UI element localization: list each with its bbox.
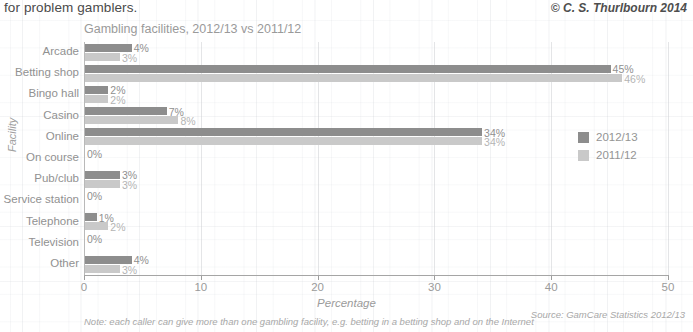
legend-label: 2012/13 [596,131,638,143]
bar-2011-12-online [85,137,482,145]
y-axis-category-label: Telephone [26,215,79,227]
chart-note: Note: each caller can give more than one… [84,316,534,327]
chart-legend: 2012/132011/12 [578,128,638,164]
bar-2012-13-other [85,256,132,264]
bar-2012-13-bingo-hall [85,86,108,94]
y-axis-category-label: On course [26,151,79,163]
y-axis-category-label: Betting shop [15,66,79,78]
bar-2011-12-other [85,265,120,273]
copyright-notice: © C. S. Thurlbourn 2014 [551,1,687,15]
x-tick-label: 20 [311,281,324,293]
bar-value-label: 34% [484,136,505,148]
bar-value-label: 3% [122,52,137,64]
y-axis-category-label: Pub/club [34,172,79,184]
bar-chart: Gambling facilities, 2012/13 vs 2011/12 … [0,18,693,332]
y-axis-category-label: Bingo hall [28,87,79,99]
chart-category-row: Television0% [0,233,693,254]
legend-swatch-icon [578,150,589,161]
bar-2012-13-arcade [85,44,132,52]
bar-value-label: 0% [87,148,102,160]
y-axis-line [84,42,85,276]
bar-2011-12-betting-shop [85,74,622,82]
bar-2012-13-casino [85,107,167,115]
bar-2011-12-pub-club [85,180,120,188]
chart-category-row: Service station0% [0,190,693,211]
legend-label: 2011/12 [596,149,637,161]
x-axis-line [84,275,669,276]
chart-category-row: Telephone1%2% [0,212,693,233]
bar-value-label: 8% [180,115,195,127]
header-caption: for problem gamblers. [4,0,137,15]
bar-2012-13-betting-shop [85,65,611,73]
x-axis-title: Percentage [0,297,693,309]
y-axis-category-label: Arcade [43,45,79,57]
bar-value-label: 2% [110,221,125,233]
chart-title: Gambling facilities, 2012/13 vs 2011/12 [84,22,301,36]
page-header: for problem gamblers. © C. S. Thurlbourn… [0,0,693,20]
x-tick-label: 0 [81,281,87,293]
y-axis-category-label: Casino [43,109,79,121]
bar-2012-13-telephone [85,213,97,221]
bar-value-label: 3% [122,264,137,276]
chart-category-row: Arcade4%3% [0,42,693,63]
bar-2012-13-pub-club [85,171,120,179]
x-tick-label: 50 [662,281,675,293]
legend-item-2011-12[interactable]: 2011/12 [578,146,638,164]
legend-swatch-icon [578,132,589,143]
bar-2011-12-bingo-hall [85,95,108,103]
chart-category-row: Other4%3% [0,254,693,275]
bar-2011-12-casino [85,116,178,124]
chart-category-row: Bingo hall2%2% [0,84,693,105]
y-axis-category-label: Television [29,236,80,248]
y-axis-category-label: Online [46,130,79,142]
y-axis-category-label: Service station [4,193,79,205]
bar-value-label: 0% [87,233,102,245]
chart-source: Source: GamCare Statistics 2012/13 [531,309,685,320]
x-tick-label: 40 [545,281,558,293]
y-axis-category-label: Other [50,257,79,269]
chart-category-row: Casino7%8% [0,106,693,127]
chart-category-row: Pub/club3%3% [0,169,693,190]
bar-2011-12-arcade [85,53,120,61]
legend-item-2012-13[interactable]: 2012/13 [578,128,638,146]
bar-2011-12-telephone [85,222,108,230]
x-tick-label: 10 [194,281,207,293]
x-tick-label: 30 [428,281,441,293]
bar-value-label: 46% [624,73,645,85]
bar-value-label: 0% [87,190,102,202]
chart-category-row: Betting shop45%46% [0,63,693,84]
bar-2012-13-online [85,128,482,136]
bar-value-label: 3% [122,179,137,191]
bar-value-label: 2% [110,94,125,106]
